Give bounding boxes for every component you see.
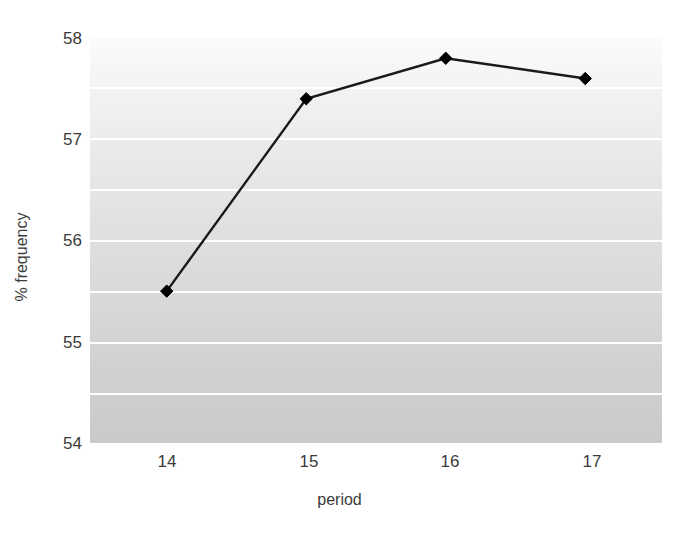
y-tick-57: 57 (38, 131, 82, 148)
series-markers (161, 52, 592, 297)
x-tick-16: 16 (420, 453, 480, 470)
y-tick-54: 54 (38, 435, 82, 452)
chart-figure: 58 57 56 55 54 14 15 16 17 % frequency p… (0, 0, 679, 538)
data-series-line (90, 38, 662, 443)
series-line-path (167, 58, 586, 291)
y-axis-title: % frequency (13, 197, 31, 317)
x-tick-14: 14 (137, 453, 197, 470)
y-tick-58: 58 (38, 30, 82, 47)
plot-area (90, 38, 662, 443)
y-tick-55: 55 (38, 334, 82, 351)
y-tick-56: 56 (38, 232, 82, 249)
x-axis-tick-labels: 14 15 16 17 (0, 453, 679, 477)
x-axis-title: period (0, 491, 679, 509)
data-point-marker (440, 52, 452, 64)
x-tick-17: 17 (562, 453, 622, 470)
x-tick-15: 15 (279, 453, 339, 470)
data-point-marker (579, 72, 591, 84)
